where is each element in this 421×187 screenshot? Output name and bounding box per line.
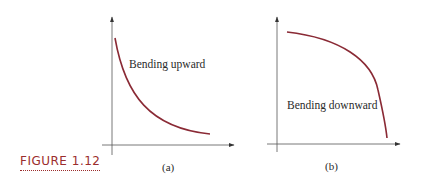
figure-number-label: FIGURE 1.12	[20, 154, 100, 171]
caption-b: (b)	[325, 160, 338, 173]
panel-a: Bending upward (a)	[102, 17, 234, 174]
curve-bending-downward	[287, 32, 387, 138]
annotation-bending-upward: Bending upward	[129, 58, 206, 71]
caption-a: (a)	[162, 161, 175, 174]
annotation-bending-downward: Bending downward	[287, 99, 378, 112]
curve-bending-upward	[115, 38, 210, 134]
panel-b: Bending downward (b)	[267, 17, 400, 173]
